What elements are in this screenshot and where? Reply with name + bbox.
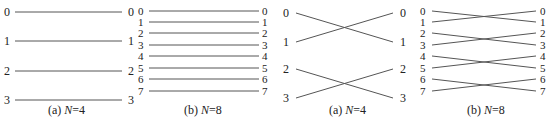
input-label-4: 4 xyxy=(420,50,426,62)
panel-b1: 0011223344556677 xyxy=(138,5,268,97)
output-label-0: 0 xyxy=(128,5,134,19)
caption-b-n8-swap: (b) N=8 xyxy=(467,103,505,118)
input-label-2: 2 xyxy=(283,62,289,76)
input-label-1: 1 xyxy=(4,34,10,48)
input-label-2: 2 xyxy=(420,27,426,39)
input-label-6: 6 xyxy=(138,73,144,85)
caption-b-n8-identity: (b) N=8 xyxy=(184,103,222,118)
panel-a1: 00112233 xyxy=(4,5,134,107)
input-label-2: 2 xyxy=(138,27,144,39)
output-label-4: 4 xyxy=(262,50,268,62)
output-label-6: 6 xyxy=(540,73,546,85)
input-label-6: 6 xyxy=(420,73,426,85)
input-label-1: 1 xyxy=(283,35,289,49)
output-label-4: 4 xyxy=(540,50,546,62)
input-label-7: 7 xyxy=(420,85,426,97)
output-label-2: 2 xyxy=(262,27,268,39)
input-label-0: 0 xyxy=(4,5,10,19)
panel-a2: 00112233 xyxy=(283,6,406,105)
output-label-3: 3 xyxy=(400,91,406,105)
panel-b2: 0011223344556677 xyxy=(420,5,546,97)
output-label-7: 7 xyxy=(262,85,268,97)
input-label-3: 3 xyxy=(283,91,289,105)
output-label-0: 0 xyxy=(400,6,406,20)
output-label-1: 1 xyxy=(400,35,406,49)
output-label-3: 3 xyxy=(128,93,134,107)
output-label-1: 1 xyxy=(128,34,134,48)
input-label-7: 7 xyxy=(138,85,144,97)
caption-a-n4-swap: (a) N=4 xyxy=(329,103,366,118)
input-label-0: 0 xyxy=(283,6,289,20)
output-label-2: 2 xyxy=(540,27,546,39)
output-label-7: 7 xyxy=(540,85,546,97)
output-label-2: 2 xyxy=(128,64,134,78)
caption-a-n4-identity: (a) N=4 xyxy=(48,103,85,118)
input-label-3: 3 xyxy=(4,93,10,107)
input-label-4: 4 xyxy=(138,50,144,62)
output-label-2: 2 xyxy=(400,62,406,76)
output-label-6: 6 xyxy=(262,73,268,85)
input-label-2: 2 xyxy=(4,64,10,78)
